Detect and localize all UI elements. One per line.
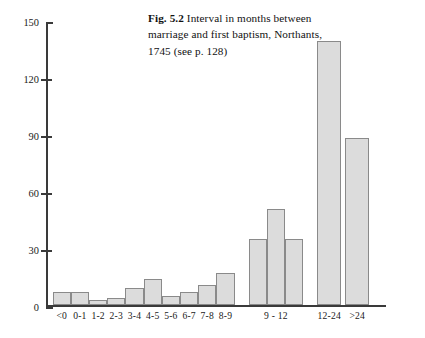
bar-9-12 [249, 239, 267, 306]
bars-container [48, 22, 386, 305]
x-tick-label: 4-5 [146, 310, 159, 321]
x-tick-label: 7-8 [201, 310, 214, 321]
x-tick-label: 3-4 [128, 310, 141, 321]
y-tick-label: 150 [23, 17, 39, 28]
x-tick-label: 5-6 [164, 310, 177, 321]
y-tick-label: 120 [23, 74, 39, 85]
y-tick-label: 0 [34, 302, 39, 313]
bar-3-4 [125, 288, 143, 305]
bar-5-6 [162, 296, 180, 306]
x-tick-label: >24 [349, 310, 365, 321]
y-tick-mark [46, 307, 53, 309]
bar-8-9 [216, 273, 234, 305]
bar-12-24 [317, 41, 341, 305]
bar-6-7 [180, 292, 198, 305]
x-tick-label: 0-1 [73, 310, 86, 321]
bar-9-12 [267, 209, 285, 306]
bar-2-3 [107, 298, 125, 306]
bar-7-8 [198, 285, 216, 306]
bar-lt0 [53, 292, 71, 305]
bar-4-5 [144, 279, 162, 306]
x-tick-label: 9 - 12 [264, 310, 288, 321]
figure-bar-chart: Fig. 5.2 Interval in months between marr… [0, 0, 425, 338]
y-tick-label: 30 [29, 245, 39, 256]
x-tick-label: <0 [56, 310, 67, 321]
plot-area: 1501209060300 [46, 22, 386, 307]
x-axis-line [46, 305, 386, 307]
x-tick-label: 6-7 [182, 310, 195, 321]
bar-9-12 [285, 239, 303, 306]
x-axis-labels: <00-11-22-33-44-55-66-77-88-99 - 1212-24… [46, 310, 386, 330]
y-tick-label: 90 [29, 131, 39, 142]
bar-1-2 [89, 300, 107, 306]
x-tick-label: 12-24 [317, 310, 340, 321]
x-tick-label: 8-9 [219, 310, 232, 321]
x-tick-label: 2-3 [110, 310, 123, 321]
x-tick-label: 1-2 [91, 310, 104, 321]
y-tick-label: 60 [29, 188, 39, 199]
bar-0-1 [71, 292, 89, 305]
bar-gt24 [345, 138, 369, 305]
